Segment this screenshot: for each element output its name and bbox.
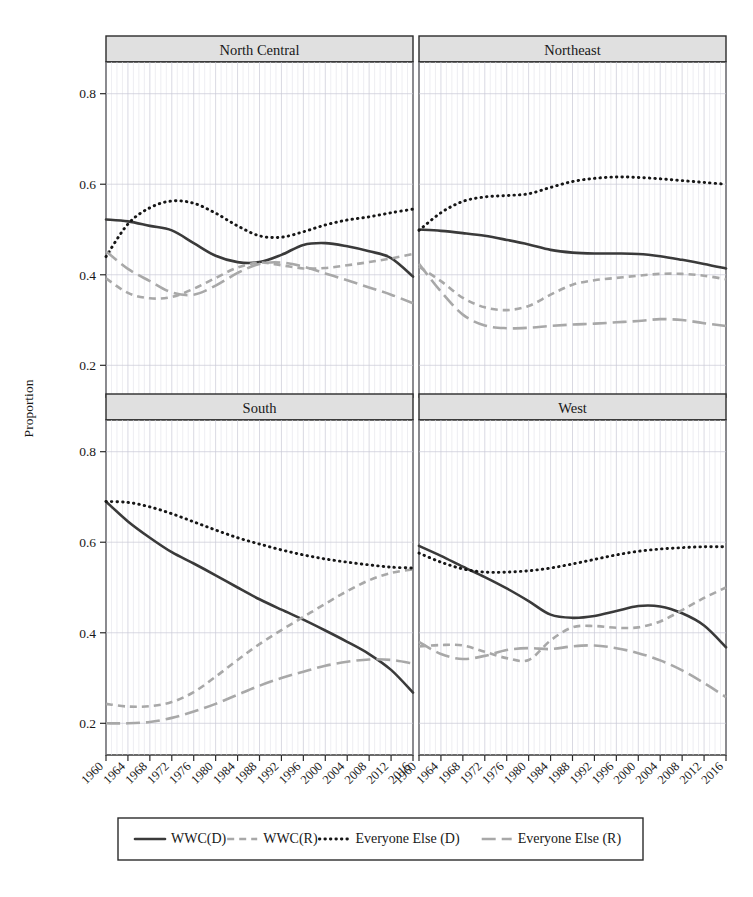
y-axis-title: Proportion — [21, 379, 36, 437]
x-tick-label: 1972 — [144, 759, 172, 787]
legend-label-everyone-else-d: Everyone Else (D) — [355, 831, 460, 847]
faceted-line-chart-svg: North CentralNortheastSouthWest0.20.40.6… — [0, 0, 753, 897]
y-tick-label: 0.6 — [79, 535, 96, 550]
x-tick-label: 2012 — [364, 759, 392, 787]
x-tick-label: 1960 — [79, 759, 107, 787]
chart-figure: North CentralNortheastSouthWest0.20.40.6… — [0, 0, 753, 897]
x-tick-label: 2004 — [633, 759, 661, 787]
x-tick-label: 1996 — [276, 759, 304, 787]
x-tick-label: 1968 — [435, 759, 463, 787]
x-tick-label: 1988 — [545, 759, 573, 787]
panel-title: West — [558, 400, 587, 416]
x-tick-label: 2008 — [342, 759, 370, 787]
x-tick-label: 1972 — [457, 759, 485, 787]
x-tick-label: 1984 — [523, 759, 551, 787]
x-tick-label: 1980 — [501, 759, 529, 787]
y-axis: 0.20.40.60.80.20.40.60.8 — [79, 86, 106, 731]
panel-west: West — [419, 394, 726, 755]
panel-northeast: Northeast — [419, 36, 726, 397]
x-tick-label: 1984 — [210, 759, 238, 787]
y-tick-label: 0.8 — [79, 444, 96, 459]
y-tick-label: 0.6 — [79, 177, 96, 192]
panel-title: South — [243, 400, 278, 416]
y-tick-label: 0.4 — [79, 268, 96, 283]
x-tick-label: 1968 — [122, 759, 150, 787]
x-tick-label: 2008 — [655, 759, 683, 787]
x-tick-label: 1980 — [188, 759, 216, 787]
legend-label-everyone-else-r: Everyone Else (R) — [518, 831, 622, 847]
x-tick-label: 1992 — [254, 759, 282, 787]
x-tick-label: 2012 — [677, 759, 705, 787]
y-tick-label: 0.2 — [79, 358, 96, 373]
x-tick-label: 2000 — [298, 759, 326, 787]
legend-label-wwc-r: WWC(R) — [263, 831, 318, 847]
panel-north-central: North Central — [106, 36, 413, 397]
x-tick-label: 2004 — [320, 759, 348, 787]
panel-title: Northeast — [544, 42, 600, 58]
x-tick-label: 1976 — [166, 759, 194, 787]
x-tick-label: 2016 — [699, 759, 727, 787]
x-tick-label: 1992 — [567, 759, 595, 787]
x-tick-label: 1976 — [479, 759, 507, 787]
panel-title: North Central — [219, 42, 299, 58]
x-tick-label: 1988 — [232, 759, 260, 787]
x-tick-label: 1964 — [100, 759, 128, 787]
x-tick-label: 2000 — [611, 759, 639, 787]
legend: WWC(D)WWC(R)Everyone Else (D)Everyone El… — [118, 818, 643, 860]
y-tick-label: 0.4 — [79, 626, 96, 641]
x-tick-label: 1996 — [589, 759, 617, 787]
panel-south: South — [106, 394, 413, 755]
y-tick-label: 0.8 — [79, 86, 96, 101]
legend-label-wwc-d: WWC(D) — [171, 831, 227, 847]
x-tick-label: 1964 — [413, 759, 441, 787]
x-axis: 1960196419681972197619801984198819921996… — [79, 755, 727, 787]
y-tick-label: 0.2 — [79, 716, 96, 731]
